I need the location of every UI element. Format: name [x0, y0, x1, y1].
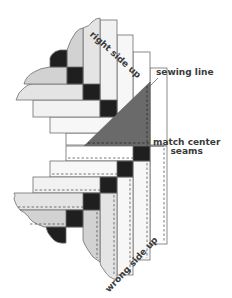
bottom-black-square-4 — [83, 193, 100, 210]
top-black-square-4 — [100, 100, 117, 117]
bottom-vertical-strip-5 — [83, 210, 100, 262]
bottom-black-square-5 — [66, 210, 83, 227]
top-inner-strip-horizontal — [24, 67, 67, 84]
bottom-block-wrong-side-up — [14, 146, 167, 280]
top-horizontal-strip-1 — [16, 84, 83, 100]
bottom-vertical-strip-4 — [100, 193, 117, 280]
top-black-square-1 — [50, 50, 67, 67]
match-center-seams-label: match center seams — [153, 138, 220, 156]
bottom-black-square-1 — [133, 146, 150, 161]
bottom-black-square-3 — [100, 177, 117, 193]
bottom-vertical-strip-1 — [150, 146, 167, 244]
bottom-black-square-2 — [117, 161, 133, 177]
sewing-line-label: sewing line — [156, 68, 214, 77]
top-horizontal-strip-2 — [33, 100, 100, 117]
bottom-black-square-6 — [46, 227, 66, 243]
top-black-square-3 — [83, 84, 100, 100]
top-vertical-strip-5 — [150, 68, 167, 145]
top-black-square-2 — [67, 67, 83, 84]
match-center-label-line2: seams — [153, 147, 220, 156]
